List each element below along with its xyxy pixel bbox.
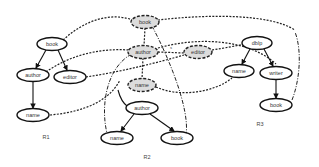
node-r2-book: book: [161, 132, 193, 145]
mapping-edge-r1book-qbook: [63, 17, 133, 40]
node-r2-name: name: [101, 132, 133, 145]
node-label: author: [134, 105, 150, 111]
node-label: author: [25, 72, 41, 78]
node-label: name: [232, 68, 246, 74]
node-label: book: [139, 19, 151, 25]
node-r3-book: book: [260, 99, 292, 112]
node-r1-editor: editor: [54, 71, 86, 84]
node-label: book: [171, 135, 183, 141]
node-r2-query-author: author: [128, 46, 158, 59]
edge-r1book-editor: [58, 50, 67, 70]
region-label-r1: R1: [42, 134, 49, 140]
edge-curve-to-r2author: [118, 90, 128, 107]
node-r2-query-name: name: [128, 79, 156, 92]
diagram-canvas: book author editor name book author edit…: [0, 0, 319, 167]
region-label-r3: R3: [256, 121, 263, 127]
node-label: author: [135, 49, 151, 55]
node-label: editor: [63, 74, 77, 80]
edge-r3dblp-name: [242, 49, 250, 64]
mapping-edge-qauthor-qeditor: [158, 52, 184, 53]
node-r1-book: book: [37, 38, 67, 51]
mapping-edge-qname-r3name: [156, 78, 232, 93]
node-r3-writer: writer: [260, 67, 292, 80]
edge-r2author-name: [121, 114, 134, 131]
mapping-edge-qbook-r3dblp-arc: [158, 16, 295, 30]
node-r2-author: author: [126, 102, 158, 115]
arc-r3book-outer: [292, 32, 299, 100]
node-r3-name: name: [224, 65, 254, 78]
node-r2-query-editor: editor: [184, 46, 212, 59]
node-label: editor: [191, 49, 205, 55]
node-label: name: [26, 112, 40, 118]
edge-r3dblp-writer: [264, 49, 273, 66]
node-r1-author: author: [17, 69, 49, 82]
node-label: book: [270, 102, 282, 108]
node-r3-dblp: dblp: [242, 37, 272, 50]
edge-r2author-book: [150, 114, 174, 131]
mapping-edge-qeditor-r3: [212, 44, 245, 50]
query-edge-book-author: [144, 28, 145, 46]
mapping-edge-r1author-qauthor: [46, 50, 129, 72]
region-label-r2: R2: [143, 154, 150, 160]
node-r2-query-book: book: [131, 16, 159, 29]
query-edge-author-name: [142, 58, 143, 79]
edge-r1book-author: [36, 50, 46, 68]
edge-mark: s: [170, 45, 172, 50]
node-label: book: [46, 41, 58, 47]
node-label: writer: [268, 70, 283, 76]
node-r1-name: name: [17, 109, 49, 122]
node-label: name: [135, 82, 149, 88]
node-label: dblp: [252, 40, 262, 46]
node-label: name: [110, 135, 124, 141]
mapping-edge-r1editor-qeditor: [86, 55, 184, 77]
mapping-edge-r1name-qname: [50, 80, 120, 115]
